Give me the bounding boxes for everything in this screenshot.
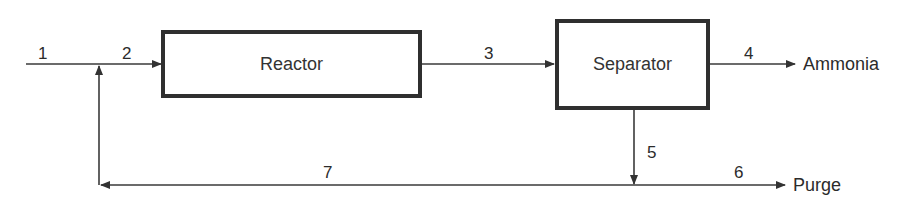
reactor-box: Reactor: [161, 30, 422, 98]
flow-lines: [0, 0, 914, 208]
stream-1-label: 1: [38, 45, 47, 62]
stream-3-label: 3: [484, 45, 493, 62]
stream-7-label: 7: [323, 164, 332, 181]
stream-5-label: 5: [647, 144, 656, 161]
stream-6-label: 6: [734, 164, 743, 181]
reactor-label: Reactor: [260, 54, 323, 75]
ammonia-output-label: Ammonia: [803, 55, 879, 73]
purge-output-label: Purge: [793, 176, 841, 194]
stream-4-label: 4: [744, 45, 753, 62]
separator-label: Separator: [593, 54, 672, 75]
separator-box: Separator: [555, 19, 710, 110]
stream-2-label: 2: [122, 45, 131, 62]
